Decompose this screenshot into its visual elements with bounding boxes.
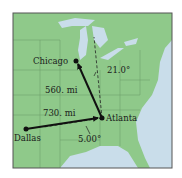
- chicago-distance-label: 560. mi: [45, 85, 78, 95]
- dallas-dot: [24, 127, 29, 132]
- map-background: [13, 13, 172, 168]
- atlanta-label: Atlanta: [105, 113, 137, 123]
- vector-map-diagram: Chicago Atlanta Dallas 560. mi 730. mi 2…: [0, 0, 182, 178]
- angle-5-label: 5.00°: [78, 134, 101, 144]
- dallas-label: Dallas: [14, 133, 41, 143]
- angle-21-label: 21.0°: [107, 65, 130, 75]
- dallas-distance-label: 730. mi: [43, 108, 76, 118]
- chicago-label: Chicago: [33, 56, 68, 66]
- chicago-dot: [74, 59, 79, 64]
- atlanta-dot: [100, 116, 105, 121]
